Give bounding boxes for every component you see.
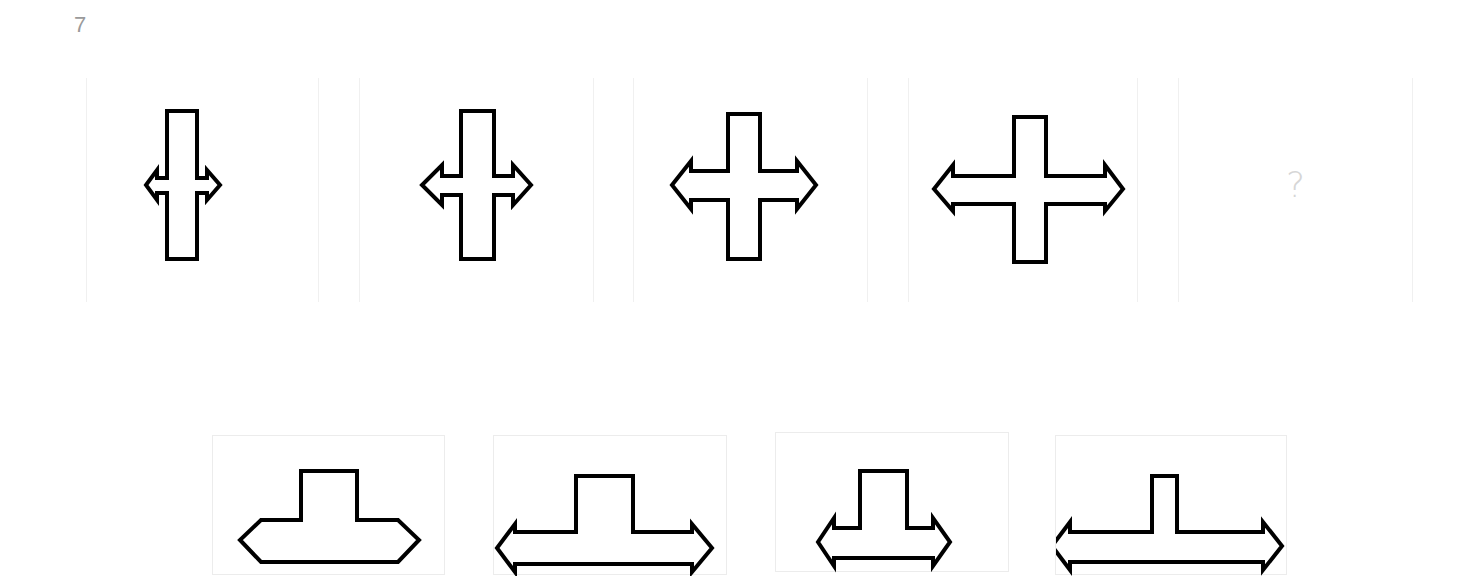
sequence-panel-1 — [86, 78, 319, 302]
cross-arrow-figure-icon — [360, 78, 595, 302]
option-d[interactable] — [1055, 435, 1287, 575]
cross-wide-arms-figure-icon — [213, 436, 446, 576]
option-b[interactable] — [493, 435, 727, 575]
option-c[interactable] — [775, 432, 1009, 572]
cross-arrow-figure-icon — [909, 78, 1139, 302]
sequence-panel-2 — [359, 78, 594, 302]
sequence-panel-3 — [633, 78, 868, 302]
cross-arrow-figure-icon — [776, 433, 1010, 573]
sequence-panel-4 — [908, 78, 1138, 302]
cross-arrow-narrow-bar-figure-icon — [1056, 436, 1288, 576]
option-a[interactable] — [212, 435, 445, 575]
question-number: 7 — [74, 12, 86, 38]
cross-arrow-figure-icon — [634, 78, 869, 302]
unknown-answer-placeholder: ? — [1179, 164, 1412, 205]
cross-arrow-figure-icon — [87, 78, 320, 302]
sequence-panel-5: ? — [1178, 78, 1413, 302]
cross-arrow-figure-icon — [494, 436, 728, 576]
